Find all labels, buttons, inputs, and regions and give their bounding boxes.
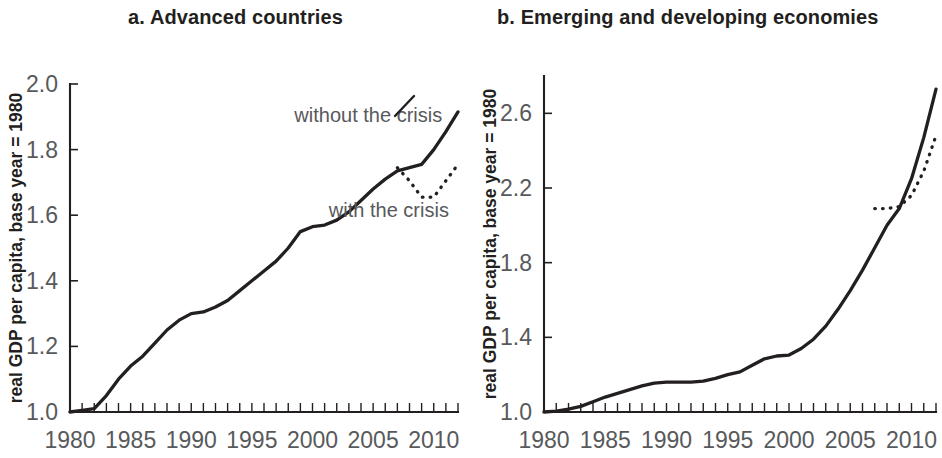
x-tick-label: 1985 (105, 427, 156, 453)
annotation-label: without the crisis (293, 104, 442, 126)
annotation-label: with the crisis (328, 199, 449, 221)
x-tick-label: 1990 (166, 427, 217, 453)
y-tick-label: 1.6 (26, 202, 58, 228)
x-tick-label: 2010 (408, 427, 459, 453)
y-tick-label: 1.8 (26, 137, 58, 163)
series-solid (70, 112, 458, 412)
x-tick-label: 1995 (702, 427, 753, 453)
y-tick-label: 1.2 (26, 333, 58, 359)
y-tick-label: 2.2 (500, 175, 532, 201)
x-tick-label: 1995 (226, 427, 277, 453)
series-solid (544, 89, 936, 412)
x-tick-label: 1980 (44, 427, 95, 453)
x-tick-label: 1980 (518, 427, 569, 453)
panel-a-plot: real GDP per capita, base year = 19801.0… (0, 0, 471, 458)
panel-b-plot: real GDP per capita, base year = 19801.0… (471, 0, 942, 458)
y-axis-title: real GDP per capita, base year = 1980 (6, 92, 26, 403)
y-tick-label: 1.8 (500, 250, 532, 276)
x-tick-label: 2000 (287, 427, 338, 453)
y-tick-label: 1.4 (500, 324, 532, 350)
y-axis-title: real GDP per capita, base year = 1980 (480, 88, 500, 399)
x-tick-label: 2005 (825, 427, 876, 453)
x-tick-label: 1985 (580, 427, 631, 453)
y-tick-label: 2.0 (26, 71, 58, 97)
y-tick-label: 1.0 (500, 399, 532, 425)
figure-two-panel-gdp: a. Advanced countries real GDP per capit… (0, 0, 942, 458)
x-tick-label: 2000 (763, 427, 814, 453)
x-tick-label: 2010 (886, 427, 937, 453)
x-tick-label: 1990 (641, 427, 692, 453)
y-tick-label: 2.6 (500, 100, 532, 126)
y-tick-label: 1.4 (26, 268, 58, 294)
panel-b-emerging-economies: b. Emerging and developing economies rea… (471, 0, 942, 458)
x-tick-label: 2005 (348, 427, 399, 453)
y-tick-label: 1.0 (26, 399, 58, 425)
panel-a-advanced-countries: a. Advanced countries real GDP per capit… (0, 0, 471, 458)
